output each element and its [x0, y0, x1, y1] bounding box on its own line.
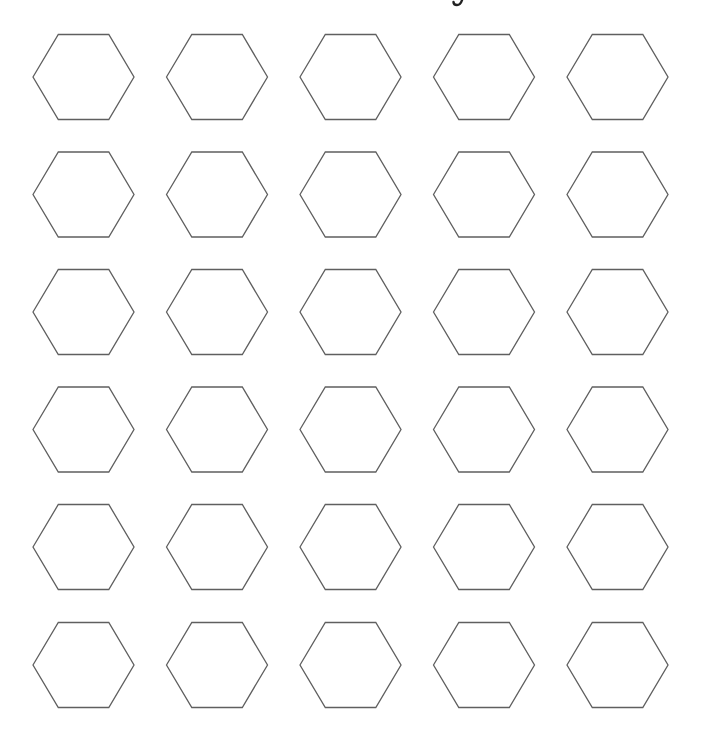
- hexagon-r2-c5: [567, 152, 668, 237]
- hexagon-r2-c2: [167, 152, 268, 237]
- hexagon-r3-c2: [167, 270, 268, 355]
- hexagon-r4-c3: [300, 387, 401, 472]
- hexagon-r3-c5: [567, 270, 668, 355]
- hexagon-r1-c4: [434, 35, 535, 120]
- hexagon-r2-c4: [434, 152, 535, 237]
- hexagon-r1-c2: [167, 35, 268, 120]
- hexagon-r2-c1: [33, 152, 134, 237]
- hexagon-grid: [33, 35, 668, 708]
- hexagon-r3-c3: [300, 270, 401, 355]
- hexagon-r6-c1: [33, 623, 134, 708]
- hexagon-r6-c3: [300, 623, 401, 708]
- hexagon-r5-c3: [300, 505, 401, 590]
- hexagon-r6-c2: [167, 623, 268, 708]
- hexagon-r4-c5: [567, 387, 668, 472]
- hexagon-r1-c3: [300, 35, 401, 120]
- hexagon-r5-c2: [167, 505, 268, 590]
- hexagon-r5-c5: [567, 505, 668, 590]
- hexagon-r4-c2: [167, 387, 268, 472]
- hexagon-worksheet: [0, 0, 704, 747]
- hexagon-r4-c1: [33, 387, 134, 472]
- hexagon-r4-c4: [434, 387, 535, 472]
- hexagon-r5-c1: [33, 505, 134, 590]
- hexagon-r3-c4: [434, 270, 535, 355]
- hexagon-r5-c4: [434, 505, 535, 590]
- hexagon-r3-c1: [33, 270, 134, 355]
- hexagon-r2-c3: [300, 152, 401, 237]
- hexagon-r1-c1: [33, 35, 134, 120]
- hexagon-r6-c5: [567, 623, 668, 708]
- hexagon-r1-c5: [567, 35, 668, 120]
- hexagon-r6-c4: [434, 623, 535, 708]
